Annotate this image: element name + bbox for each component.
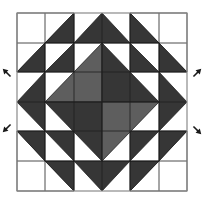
arrow-up-right-icon [191, 67, 203, 79]
arrow-down-right-icon [191, 124, 203, 136]
quilt-block-diagram [0, 0, 207, 200]
arrow-down-left-icon [1, 122, 13, 134]
arrow-up-left-icon [1, 67, 13, 79]
